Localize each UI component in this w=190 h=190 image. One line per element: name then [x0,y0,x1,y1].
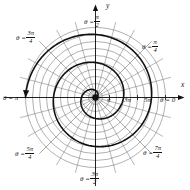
theta-3pi-2-label: θ =3π2 [80,171,100,186]
tick-5pi-label: 5π [144,97,151,104]
theta-pi-2-label: θ =π2 [84,14,100,29]
polar-chart-figure: θ = 0θ =π4θ =π2θ =3π4θ = πθ =5π4θ =3π2θ … [0,0,190,190]
origin-dot-icon [92,94,98,100]
tick-3pi-label: 3π [124,97,131,104]
theta-5pi-4-label: θ =5π4 [15,146,35,161]
y-axis-label: y [106,2,109,10]
theta-3pi-4-label: θ =3π4 [16,30,36,45]
x-axis-label: x [181,81,184,89]
spiral-curve [25,34,151,146]
theta-7pi-4-label: θ =7π4 [143,145,163,160]
theta-0-label: θ = 0 [160,97,175,104]
theta-pi-label: θ = π [3,95,18,102]
theta-pi-4-label: θ =π4 [142,39,158,54]
tick-pi-label: π [107,97,111,104]
